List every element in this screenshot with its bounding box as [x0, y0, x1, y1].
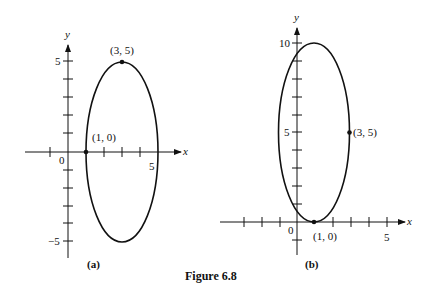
origin-label-a: 0 — [59, 154, 65, 166]
x-tick-label-5-b: 5 — [384, 231, 390, 243]
y-tick-label-neg5-a: −5 — [48, 235, 60, 247]
point-3-5-a — [120, 60, 125, 65]
point-3-5-b — [347, 130, 352, 135]
y-tick-label-5-b: 5 — [284, 126, 290, 138]
y-axis-label-b: y — [293, 11, 299, 23]
y-tick-label-10-b: 10 — [279, 37, 291, 49]
point-label-3-5-a: (3, 5) — [110, 44, 134, 57]
origin-label-b: 0 — [288, 224, 294, 236]
point-label-3-5-b: (3, 5) — [353, 126, 377, 139]
y-tick-label-5-a: 5 — [55, 55, 61, 67]
figure-caption: Figure 6.8 — [185, 269, 237, 283]
point-label-1-0-a: (1, 0) — [92, 131, 116, 144]
x-axis-label-b: x — [406, 215, 412, 227]
y-axis-label-a: y — [64, 28, 70, 40]
x-tick-label-5-a: 5 — [149, 160, 155, 172]
panel-label-b: (b) — [305, 258, 319, 271]
figure-canvas: y x 0 5 5 −5 (3, 5) (1, 0) (a) — [0, 0, 430, 285]
panel-a: y x 0 5 5 −5 (3, 5) (1, 0) (a) — [25, 28, 188, 271]
point-label-1-0-b: (1, 0) — [313, 230, 337, 243]
panel-b: y x 0 5 10 5 (3, 5) (1, 0) (b) — [220, 11, 412, 271]
x-axis-label-a: x — [182, 145, 188, 157]
point-1-0-a — [84, 150, 89, 155]
point-1-0-b — [312, 220, 317, 225]
panel-label-a: (a) — [87, 258, 100, 271]
